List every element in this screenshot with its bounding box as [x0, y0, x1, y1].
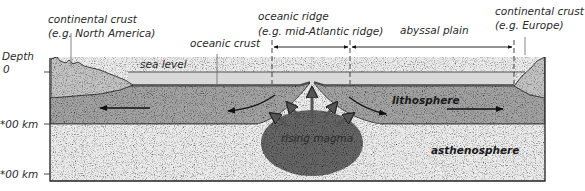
depth-tick-100: *00 km [0, 118, 38, 130]
label-continental-crust-left: continental crust [48, 13, 138, 25]
label-oceanic-crust: oceanic crust [190, 37, 261, 49]
label-continental-crust-left-example: (e.g. North America) [48, 27, 155, 39]
sea-floor-spreading-diagram: Depth 0 *00 km *00 km continental crust … [0, 0, 585, 191]
label-abyssal-plain: abyssal plain [400, 24, 469, 36]
label-continental-crust-right-example: (e.g. Europe) [495, 19, 564, 31]
label-rising-magma: rising magma [281, 132, 353, 144]
ocean-water [128, 72, 514, 85]
depth-axis-title: Depth [2, 50, 34, 62]
label-oceanic-ridge-example: (e.g. mid-Atlantic ridge) [258, 25, 383, 37]
label-continental-crust-right: continental crust [495, 5, 585, 17]
label-oceanic-ridge: oceanic ridge [258, 10, 329, 22]
label-lithosphere: lithosphere [392, 94, 460, 106]
label-sea-level: sea level [140, 58, 187, 70]
depth-tick-200: *00 km [0, 168, 38, 180]
depth-tick-0: 0 [3, 63, 10, 75]
depth-axis [44, 72, 50, 174]
label-asthenosphere: asthenosphere [431, 144, 519, 156]
